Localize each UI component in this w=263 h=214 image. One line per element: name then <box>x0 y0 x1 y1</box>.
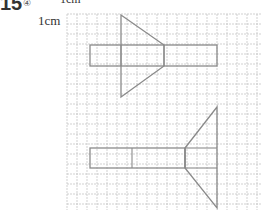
top-figure <box>90 15 217 97</box>
grid-lines <box>67 14 262 210</box>
bottom-figure <box>90 107 217 208</box>
grid-diagram <box>0 0 263 214</box>
